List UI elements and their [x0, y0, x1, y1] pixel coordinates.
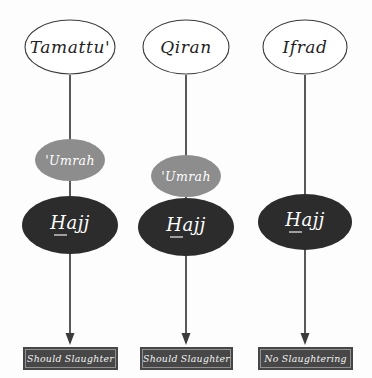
arrow-head-qiran: [182, 333, 191, 345]
label-outcome-qiran: Should Slaughter: [143, 353, 230, 364]
label-qiran-umrah: 'Umrah: [161, 169, 211, 184]
hajj-types-diagram: Tamattu' 'Umrah Hajj Should Slaughter Qi…: [0, 0, 372, 378]
label-outcome-tamattu: Should Slaughter: [27, 353, 114, 364]
arrow-head-tamattu: [66, 333, 75, 345]
label-qiran-top: Qiran: [160, 37, 212, 57]
arrow-head-ifrad: [301, 333, 310, 345]
diagram-canvas: Tamattu' 'Umrah Hajj Should Slaughter Qi…: [0, 0, 372, 378]
label-tamattu-hajj: Hajj: [49, 212, 90, 233]
column-qiran: Qiran 'Umrah Hajj Should Slaughter: [138, 20, 234, 370]
label-qiran-hajj: Hajj: [165, 214, 206, 235]
column-tamattu: Tamattu' 'Umrah Hajj Should Slaughter: [22, 20, 118, 370]
label-outcome-ifrad: No Slaughtering: [263, 353, 347, 364]
column-ifrad: Ifrad Hajj No Slaughtering: [258, 20, 353, 370]
label-ifrad-hajj: Hajj: [284, 209, 325, 230]
label-ifrad-top: Ifrad: [281, 37, 327, 57]
label-tamattu-umrah: 'Umrah: [45, 153, 95, 168]
label-tamattu-top: Tamattu': [30, 37, 111, 57]
